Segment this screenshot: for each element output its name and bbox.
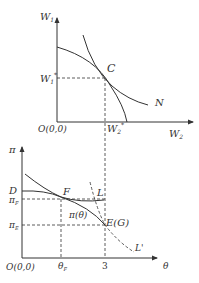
w2-star-label: W2* — [107, 121, 124, 135]
point-l-label: L — [96, 187, 104, 198]
w1-axis-label: W1 — [40, 11, 54, 23]
point-f-label: F — [62, 186, 71, 197]
pi-axis-label: π — [8, 144, 16, 155]
top-origin-label: O(0,0) — [38, 124, 67, 134]
pi-e-label: πE — [8, 220, 19, 231]
pi-f-label: πF — [8, 195, 19, 206]
w2-axis-label: W2 — [169, 128, 183, 140]
curve-n-label: N — [154, 97, 165, 108]
theta-axis-label: θ — [163, 261, 169, 271]
bottom-panel: π θ O(0,0) D F L E(G) L' π(θ) πF πE θF 3 — [6, 144, 169, 272]
bottom-origin-label: O(0,0) — [6, 262, 35, 272]
curve-l-prime-label: L' — [134, 243, 143, 253]
economics-diagram: W1 W2 O(0,0) C N W1* W2* π θ O(0,0) D F … — [0, 0, 199, 283]
pi-theta-curve — [25, 174, 105, 225]
theta-3-label: 3 — [102, 261, 108, 271]
w1-star-label: W1* — [40, 71, 57, 85]
theta-f-label: θF — [58, 261, 67, 272]
point-e-label: E(G) — [105, 217, 129, 228]
point-c-label: C — [107, 62, 116, 75]
curve-pi-theta-label: π(θ) — [68, 210, 88, 220]
